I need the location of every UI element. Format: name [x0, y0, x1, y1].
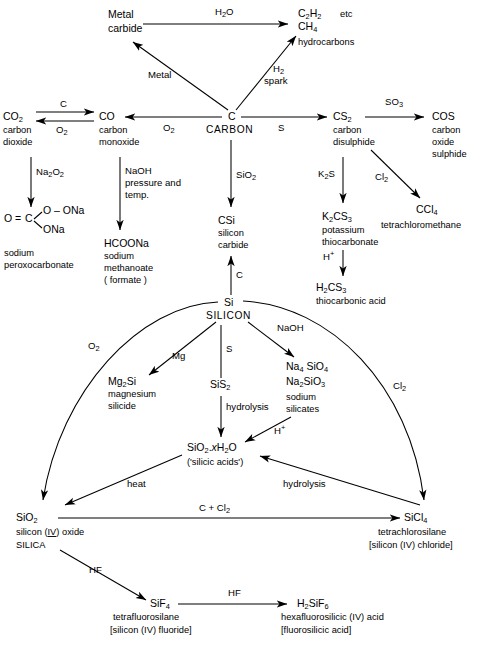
- svg-text:temp.: temp.: [125, 189, 149, 200]
- node-tetrafluorosilane: SiF4 tetrafluorosilane [silicon (IV) flu…: [110, 597, 192, 635]
- h2cs3-name: thiocarbonic acid: [316, 296, 386, 306]
- hcoona-name3: ( formate ): [104, 275, 147, 285]
- arrow-silica-to-sif4: [60, 550, 146, 600]
- ccl4-name: tetrachloromethane: [381, 220, 461, 230]
- hcoona-name2: methanoate: [104, 263, 153, 273]
- sif4-formula: SiF4: [150, 597, 170, 611]
- co2-formula: CO2: [3, 110, 23, 124]
- reagent-c-co2toco: C: [60, 98, 67, 109]
- csi-name2: carbide: [218, 240, 249, 250]
- hydrocarbons-etc: etc: [340, 9, 353, 19]
- k2cs3-name1: potassium: [322, 225, 365, 235]
- cos-name2: oxide: [432, 137, 454, 147]
- silicicacids-name: ('silicic acids'): [187, 457, 243, 467]
- cs2-formula: CS2: [333, 110, 352, 124]
- mg2si-name1: magnesium: [108, 389, 156, 399]
- hcoona-formula: HCOONa: [104, 237, 149, 249]
- silicates-name2: silicates: [286, 404, 319, 414]
- csi-formula: CSi: [218, 214, 235, 226]
- arrow-silicon-to-mg2si: [149, 322, 216, 375]
- node-tetrachloromethane: CCl4 tetrachloromethane: [381, 203, 461, 230]
- node-silicic-acids: SiO2.xH2O ('silicic acids'): [187, 441, 243, 467]
- peroxo-core-eq: =: [15, 212, 21, 224]
- diagram-canvas: Metal carbide H2O C2H2 etc CH4 hydrocarb…: [0, 0, 495, 647]
- h2sif6-name2: [fluorosilicic acid]: [281, 625, 351, 635]
- ccl4-formula: CCl4: [416, 203, 438, 217]
- co-name2: monoxide: [99, 137, 139, 147]
- node-silicon-carbide: CSi silicon carbide: [218, 214, 249, 250]
- peroxo-branch-bottom: ONa: [43, 223, 65, 235]
- co-formula: CO: [99, 110, 115, 122]
- reagent-o2-to-co: O2: [163, 122, 175, 135]
- node-silicon: Si SILICON: [206, 296, 251, 321]
- reagent-na2o2: Na2O2: [36, 166, 64, 179]
- reagent-h-plus-silicates: H+: [274, 423, 285, 436]
- sif4-name1: tetrafluorosilane: [113, 612, 179, 622]
- metal-carbide-line2: carbide: [108, 22, 143, 34]
- co2-name1: carbon: [3, 125, 31, 135]
- sif4-name2: [silicon (IV) fluoride]: [110, 625, 192, 635]
- silica-name2: SILICA: [16, 540, 46, 550]
- co2-name2: dioxide: [3, 137, 32, 147]
- node-potassium-thiocarbonate: K2CS3 potassium thiocarbonate: [322, 210, 378, 247]
- curve-silicon-to-sicl4-cl2: [243, 301, 424, 500]
- peroxo-bond-upper: [34, 212, 42, 219]
- silica-formula: SiO2: [16, 511, 38, 525]
- sicl4-name1: tetrachlorosilane: [378, 527, 446, 537]
- reagent-naoh-silicates: NaOH: [277, 322, 304, 333]
- reagent-cl2-curve: Cl2: [393, 380, 406, 393]
- mg2si-name2: silicide: [108, 401, 136, 411]
- sicl4-formula: SiCl4: [404, 511, 427, 525]
- reagent-so3: SO3: [385, 96, 403, 109]
- node-carbon-disulphide: CS2 carbon disulphide: [333, 110, 375, 147]
- svg-text:NaOH: NaOH: [125, 165, 152, 176]
- silicon-name: SILICON: [206, 310, 251, 321]
- reagent-h2-spark: H2 spark: [264, 63, 288, 86]
- node-carbon-monoxide: CO carbon monoxide: [99, 110, 139, 147]
- reagent-s-to-sis2: S: [226, 343, 232, 354]
- co-name1: carbon: [99, 125, 127, 135]
- silicates-formula-1: Na4 SiO4: [286, 360, 328, 374]
- node-carbon: C CARBON: [206, 110, 253, 135]
- node-metal-carbide: Metal carbide: [108, 8, 143, 34]
- h2sif6-name1: hexafluorosilicic (IV) acid: [281, 612, 384, 622]
- peroxo-name1: sodium: [4, 248, 34, 258]
- carbon-name: CARBON: [206, 124, 253, 135]
- sicl4-name2: [silicon (IV) chloride]: [369, 540, 453, 550]
- hydrocarbons-name: hydrocarbons: [298, 37, 355, 47]
- silicates-name1: sodium: [286, 392, 316, 402]
- peroxo-name2: peroxocarbonate: [4, 260, 74, 270]
- node-carbon-oxide-sulphide: COS carbon oxide sulphide: [432, 110, 467, 159]
- reagent-cl2-ccl4: Cl2: [375, 171, 388, 184]
- node-magnesium-silicide: Mg2Si magnesium silicide: [108, 375, 156, 411]
- reagent-hydrolysis-sis2: hydrolysis: [226, 401, 269, 412]
- arrow-carbon-to-hydrocarbons: [236, 36, 296, 110]
- peroxo-bond-lower: [34, 221, 42, 228]
- reagent-hf-2: HF: [228, 587, 241, 598]
- k2cs3-formula: K2CS3: [322, 210, 352, 224]
- reagent-metal: Metal: [148, 69, 171, 80]
- sis2-formula: SiS2: [210, 378, 230, 392]
- metal-carbide-line1: Metal: [108, 8, 134, 20]
- node-silicon-disulphide: SiS2: [210, 378, 230, 392]
- arrow-silicicacids-to-silica: [65, 455, 182, 505]
- node-thiocarbonic-acid: H2CS3 thiocarbonic acid: [316, 281, 386, 306]
- node-carbon-dioxide: CO2 carbon dioxide: [3, 110, 32, 147]
- cos-name1: carbon: [432, 125, 460, 135]
- node-hexafluorosilicic-acid: H2SiF6 hexafluorosilicic (IV) acid [fluo…: [281, 597, 384, 635]
- reagent-o2-cotoco2: O2: [56, 124, 68, 137]
- cs2-name2: disulphide: [333, 137, 375, 147]
- hydrocarbons-formula-2: CH4: [298, 20, 317, 34]
- node-silica: SiO2 silicon (IV) oxide SILICA: [16, 511, 84, 550]
- svg-text:H2O: H2O: [215, 6, 234, 19]
- reagent-o2-curve: O2: [88, 340, 100, 353]
- svg-text:pressure and: pressure and: [125, 177, 181, 188]
- node-hydrocarbons: C2H2 etc CH4 hydrocarbons: [298, 7, 355, 47]
- svg-text:spark: spark: [264, 75, 288, 86]
- silicicacids-formula: SiO2.xH2O: [187, 441, 237, 455]
- reagent-heat: heat: [127, 478, 146, 489]
- node-sodium-silicates: Na4 SiO4 Na2SiO3 sodium silicates: [286, 360, 328, 414]
- reagent-mg: Mg: [172, 350, 185, 361]
- k2cs3-name2: thiocarbonate: [322, 237, 378, 247]
- node-sodium-methanoate: HCOONa sodium methanoate ( formate ): [104, 237, 153, 285]
